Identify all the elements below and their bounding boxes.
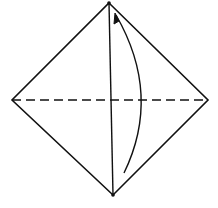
arrowhead-icon — [114, 13, 119, 24]
fold-up-arrow-icon — [116, 15, 141, 173]
bottom-vertex-dot — [111, 193, 115, 197]
vertical-crease-line — [109, 3, 113, 195]
origami-diagram — [0, 0, 218, 208]
top-vertex-dot — [107, 1, 111, 5]
